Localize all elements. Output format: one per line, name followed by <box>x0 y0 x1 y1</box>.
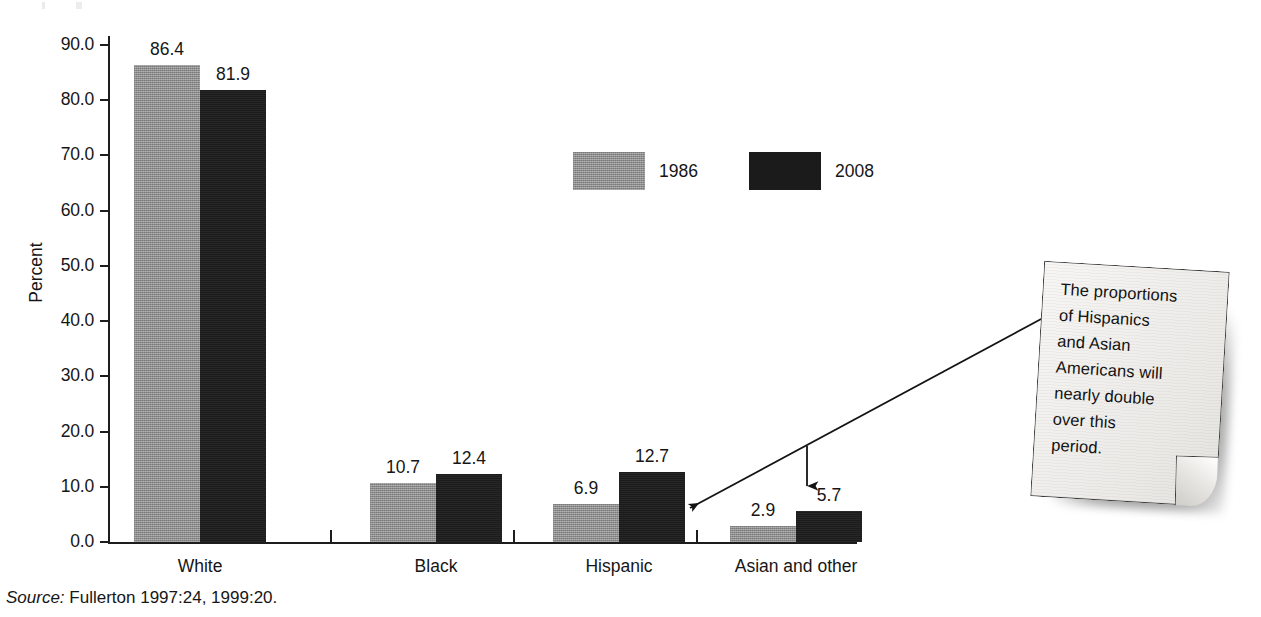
bar-asian-and-other-2008[interactable] <box>796 511 862 542</box>
y-axis-tick <box>100 44 109 46</box>
legend-label-1986: 1986 <box>659 161 698 182</box>
y-axis-tick <box>100 265 109 267</box>
legend-swatch-2008 <box>749 152 821 190</box>
y-axis-tick <box>100 541 109 543</box>
callout-note: The proportionsof Hispanicsand AsianAmer… <box>1030 261 1230 508</box>
y-axis-tick <box>100 486 109 488</box>
bar-value-label: 81.9 <box>186 64 280 85</box>
y-axis-tick-label: 30.0 <box>28 365 94 386</box>
y-axis-tick <box>100 320 109 322</box>
y-axis-tick-label: 50.0 <box>28 255 94 276</box>
y-axis-tick <box>100 210 109 212</box>
bar-hispanic-2008[interactable] <box>619 472 685 542</box>
bar-black-1986[interactable] <box>370 483 436 542</box>
legend-swatch-1986 <box>573 152 645 190</box>
bar-white-2008[interactable] <box>200 90 266 542</box>
bar-value-label: 12.7 <box>605 446 699 467</box>
x-axis-line <box>108 542 857 544</box>
callout-leader-line <box>690 318 1043 508</box>
y-axis-tick-label: 70.0 <box>28 144 94 165</box>
y-axis-line <box>108 36 110 544</box>
y-axis-tick <box>100 431 109 433</box>
source-text: Fullerton 1997:24, 1999:20. <box>69 588 277 607</box>
legend-label-2008: 2008 <box>835 161 874 182</box>
bar-chart: Percent 90.080.070.060.050.040.030.020.0… <box>0 0 1261 617</box>
bar-asian-and-other-1986[interactable] <box>730 526 796 542</box>
y-axis-tick-label: 10.0 <box>28 476 94 497</box>
y-axis-tick-label: 90.0 <box>28 34 94 55</box>
bar-value-label: 5.7 <box>782 485 876 506</box>
y-axis-tick-label: 40.0 <box>28 310 94 331</box>
bar-hispanic-1986[interactable] <box>553 504 619 542</box>
x-axis-group-tick <box>330 530 332 543</box>
x-axis-category-label: White <box>90 556 310 577</box>
x-axis-group-tick <box>513 530 515 543</box>
bar-value-label: 12.4 <box>422 448 516 469</box>
bar-black-2008[interactable] <box>436 474 502 542</box>
x-axis-category-label: Asian and other <box>686 556 906 577</box>
y-axis-tick-label: 0.0 <box>28 531 94 552</box>
y-axis-tick <box>100 375 109 377</box>
source-line: Source: Fullerton 1997:24, 1999:20. <box>6 588 277 608</box>
x-axis-group-tick <box>696 530 698 543</box>
bar-white-1986[interactable] <box>134 65 200 542</box>
y-axis-tick <box>100 99 109 101</box>
y-axis-tick <box>100 154 109 156</box>
y-axis-tick-label: 20.0 <box>28 421 94 442</box>
y-axis-tick-label: 60.0 <box>28 200 94 221</box>
note-text: The proportionsof Hispanicsand AsianAmer… <box>1051 276 1220 467</box>
source-prefix: Source: <box>6 588 65 607</box>
bar-value-label: 86.4 <box>120 39 214 60</box>
y-axis-tick-label: 80.0 <box>28 89 94 110</box>
